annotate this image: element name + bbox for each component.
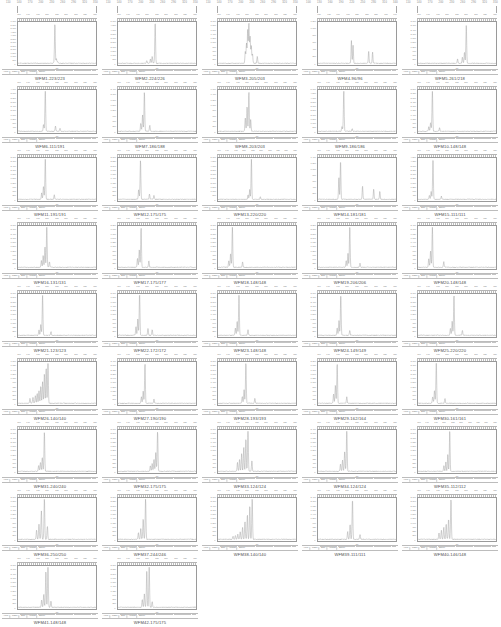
table-column-header[interactable]: Score xyxy=(138,411,146,413)
table-column-header[interactable]: Score xyxy=(238,71,246,73)
table-column-header[interactable]: Height xyxy=(128,615,137,617)
result-table-header[interactable]: AlleleLabelSizeHeightScore xyxy=(102,341,198,347)
electropherogram-panel[interactable]: 1101401702002302602903203501,8001,6201,4… xyxy=(0,353,100,421)
result-table-header[interactable]: AlleleLabelSizeHeightScore xyxy=(302,205,398,211)
table-column-header[interactable]: Size xyxy=(420,139,427,141)
table-column-header[interactable]: Allele xyxy=(102,275,110,277)
table-column-header[interactable]: Score xyxy=(438,479,446,481)
table-column-header[interactable]: Label xyxy=(411,207,419,209)
electropherogram-panel[interactable]: 1101401702002302602903203502,8002,5202,2… xyxy=(200,285,300,353)
table-column-header[interactable]: Label xyxy=(411,71,419,73)
table-column-header[interactable]: Size xyxy=(120,547,127,549)
table-column-header[interactable]: Allele xyxy=(202,139,210,141)
table-column-header[interactable]: Height xyxy=(228,207,237,209)
result-table-header[interactable]: AlleleLabelSizeHeightScore xyxy=(402,137,498,143)
table-column-header[interactable]: Allele xyxy=(302,479,310,481)
result-table-header[interactable]: AlleleLabelSizeHeightScore xyxy=(302,341,398,347)
table-column-header[interactable]: Height xyxy=(128,71,137,73)
table-column-header[interactable]: Score xyxy=(38,615,46,617)
electropherogram-panel[interactable]: 1101401702002302602903203503,0002,7002,4… xyxy=(0,149,100,217)
table-column-header[interactable]: Label xyxy=(11,615,19,617)
table-column-header[interactable]: Allele xyxy=(2,547,10,549)
table-column-header[interactable]: Allele xyxy=(102,479,110,481)
electropherogram-panel[interactable]: 1101401702002302602903203503802,6002,340… xyxy=(400,421,500,489)
electropherogram-panel[interactable]: 1101401702002302602903203502,8002,5202,2… xyxy=(100,149,200,217)
table-column-header[interactable]: Score xyxy=(438,411,446,413)
table-column-header[interactable]: Height xyxy=(128,411,137,413)
table-column-header[interactable]: Label xyxy=(311,343,319,345)
table-column-header[interactable]: Label xyxy=(211,139,219,141)
table-column-header[interactable]: Label xyxy=(311,275,319,277)
table-column-header[interactable]: Allele xyxy=(402,547,410,549)
result-table-header[interactable]: AlleleLabelSizeHeightScore xyxy=(102,477,198,483)
plot-area[interactable] xyxy=(217,225,297,270)
table-column-header[interactable]: Score xyxy=(138,71,146,73)
result-table-header[interactable]: AlleleLabelSizeHeightScore xyxy=(102,409,198,415)
table-column-header[interactable]: Allele xyxy=(402,479,410,481)
electropherogram-panel[interactable]: 1101401702002302602903203503805,0004,500… xyxy=(200,149,300,217)
table-column-header[interactable]: Label xyxy=(11,139,19,141)
table-column-header[interactable]: Allele xyxy=(402,71,410,73)
table-column-header[interactable]: Label xyxy=(11,207,19,209)
plot-area[interactable] xyxy=(17,497,97,542)
table-column-header[interactable]: Label xyxy=(211,71,219,73)
result-table-header[interactable]: AlleleLabelSizeHeightScore xyxy=(302,137,398,143)
table-column-header[interactable]: Size xyxy=(220,547,227,549)
result-table-header[interactable]: AlleleLabelSizeHeightScore xyxy=(102,273,198,279)
table-column-header[interactable]: Size xyxy=(420,71,427,73)
table-column-header[interactable]: Score xyxy=(238,139,246,141)
table-column-header[interactable]: Size xyxy=(320,71,327,73)
table-column-header[interactable]: Size xyxy=(120,71,127,73)
table-column-header[interactable]: Score xyxy=(138,547,146,549)
table-column-header[interactable]: Allele xyxy=(202,343,210,345)
table-column-header[interactable]: Height xyxy=(428,139,437,141)
table-column-header[interactable]: Score xyxy=(38,343,46,345)
table-column-header[interactable]: Size xyxy=(420,207,427,209)
table-column-header[interactable]: Height xyxy=(228,479,237,481)
electropherogram-panel[interactable]: 1101401702002302602903203501,4001,2001,0… xyxy=(300,149,400,217)
electropherogram-panel[interactable]: 1101401702002302602903203504,5004,0503,6… xyxy=(400,149,500,217)
table-column-header[interactable]: Score xyxy=(438,275,446,277)
table-column-header[interactable]: Allele xyxy=(302,411,310,413)
table-column-header[interactable]: Allele xyxy=(102,547,110,549)
table-column-header[interactable]: Score xyxy=(138,207,146,209)
table-column-header[interactable]: Label xyxy=(111,71,119,73)
table-column-header[interactable]: Size xyxy=(420,547,427,549)
plot-area[interactable] xyxy=(17,293,97,338)
table-column-header[interactable]: Size xyxy=(220,71,227,73)
electropherogram-panel[interactable]: 1101401702002302602903203503,0002,7002,4… xyxy=(300,285,400,353)
plot-area[interactable] xyxy=(117,429,197,474)
electropherogram-panel[interactable]: 1101401702002302602903203505,0004,5004,0… xyxy=(100,13,200,81)
table-column-header[interactable]: Height xyxy=(328,547,337,549)
table-column-header[interactable]: Height xyxy=(428,343,437,345)
table-column-header[interactable]: Score xyxy=(38,71,46,73)
table-column-header[interactable]: Label xyxy=(111,139,119,141)
table-column-header[interactable]: Height xyxy=(328,275,337,277)
table-column-header[interactable]: Allele xyxy=(202,411,210,413)
table-column-header[interactable]: Height xyxy=(428,207,437,209)
plot-area[interactable] xyxy=(317,225,397,270)
electropherogram-panel[interactable]: 1101401702002302602903203502,0001,8001,6… xyxy=(200,13,300,81)
result-table-header[interactable]: AlleleLabelSizeHeightScore xyxy=(402,69,498,75)
electropherogram-panel[interactable]: 1101401702002302602903203506,0005,5005,0… xyxy=(0,13,100,81)
plot-area[interactable] xyxy=(117,565,197,610)
result-table-header[interactable]: AlleleLabelSizeHeightScore xyxy=(2,273,98,279)
table-column-header[interactable]: Size xyxy=(220,207,227,209)
table-column-header[interactable]: Height xyxy=(228,343,237,345)
plot-area[interactable] xyxy=(117,225,197,270)
table-column-header[interactable]: Height xyxy=(328,139,337,141)
electropherogram-panel[interactable]: 1101401702002302602903203502,2001,9801,7… xyxy=(100,217,200,285)
table-column-header[interactable]: Score xyxy=(238,479,246,481)
table-column-header[interactable]: Size xyxy=(20,71,27,73)
table-column-header[interactable]: Height xyxy=(28,547,37,549)
result-table-header[interactable]: AlleleLabelSizeHeightScore xyxy=(2,205,98,211)
table-column-header[interactable]: Score xyxy=(238,547,246,549)
plot-area[interactable] xyxy=(417,225,497,270)
plot-area[interactable] xyxy=(417,361,497,406)
plot-area[interactable] xyxy=(117,89,197,134)
table-column-header[interactable]: Allele xyxy=(302,547,310,549)
table-column-header[interactable]: Label xyxy=(11,275,19,277)
table-column-header[interactable]: Allele xyxy=(102,71,110,73)
table-column-header[interactable]: Score xyxy=(138,479,146,481)
result-table-header[interactable]: AlleleLabelSizeHeightScore xyxy=(2,341,98,347)
